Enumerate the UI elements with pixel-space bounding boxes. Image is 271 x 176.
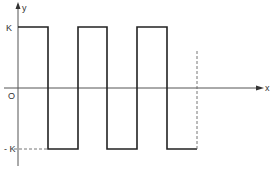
square-wave-chart: y x O K - K	[0, 0, 271, 176]
x-axis-arrow-icon	[256, 86, 264, 91]
y-axis-arrow-icon	[16, 2, 21, 9]
y-axis-label: y	[22, 3, 27, 13]
x-axis-label: x	[265, 83, 270, 93]
k-high-label: K	[6, 23, 12, 33]
k-low-label: - K	[4, 144, 16, 154]
origin-label: O	[8, 91, 15, 101]
